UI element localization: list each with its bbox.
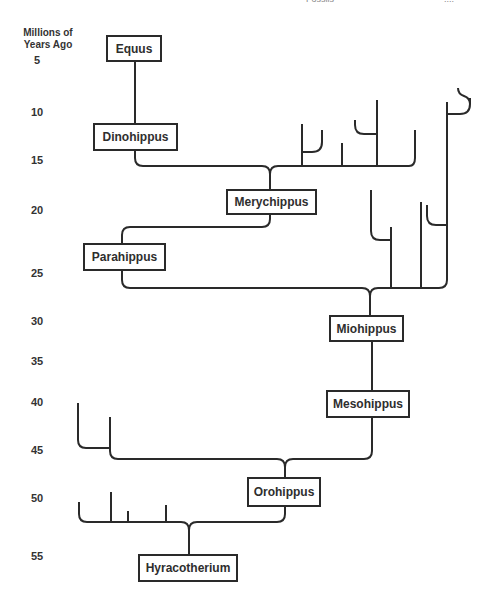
node-equus: Equus — [106, 35, 162, 62]
node-merychippus: Merychippus — [226, 189, 317, 215]
node-orohippus: Orohippus — [247, 477, 321, 507]
node-miohippus: Miohippus — [329, 315, 404, 342]
node-dinohippus: Dinohippus — [93, 123, 178, 151]
node-hyracotherium: Hyracotherium — [138, 554, 238, 582]
node-parahippus: Parahippus — [83, 243, 166, 271]
node-mesohippus: Mesohippus — [326, 390, 410, 418]
phylogeny-lines — [0, 0, 497, 601]
